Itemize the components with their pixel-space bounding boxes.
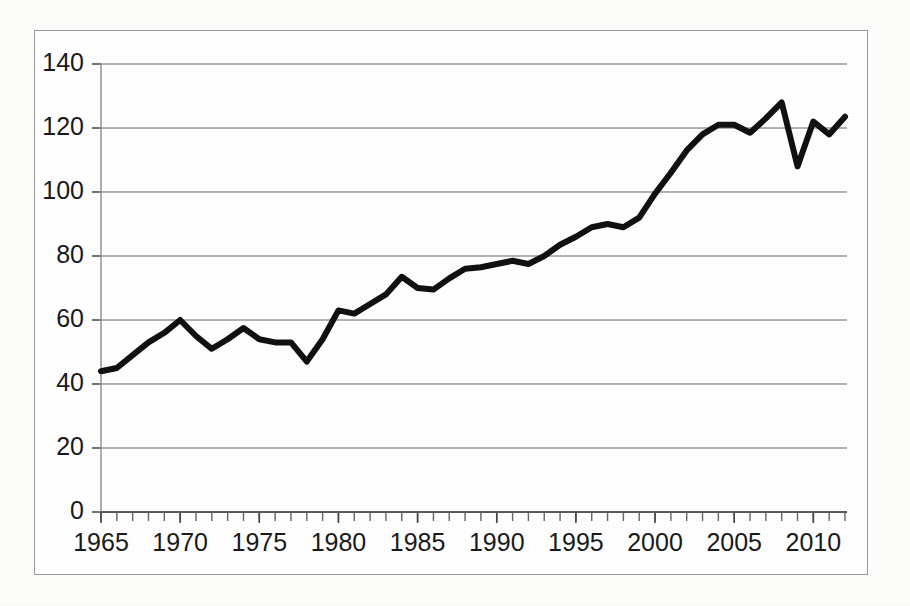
y-tick-label: 80 (14, 240, 84, 269)
x-tick-label: 2005 (689, 528, 779, 557)
data-series-line (101, 102, 845, 371)
chart-figure: 020406080100120140 196519701975198019851… (0, 0, 910, 606)
x-tick-label: 1980 (293, 528, 383, 557)
line-chart-plot (0, 0, 910, 606)
y-ticks-group (92, 64, 101, 512)
y-tick-label: 20 (14, 432, 84, 461)
x-tick-label: 1985 (373, 528, 463, 557)
x-tick-label: 2010 (768, 528, 858, 557)
gridlines-group (101, 64, 847, 448)
x-tick-label: 1965 (56, 528, 146, 557)
x-major-ticks-group (101, 512, 813, 523)
y-tick-label: 140 (14, 48, 84, 77)
y-tick-label: 60 (14, 304, 84, 333)
y-tick-label: 120 (14, 112, 84, 141)
x-tick-label: 1970 (135, 528, 225, 557)
x-tick-label: 1990 (452, 528, 542, 557)
y-tick-label: 0 (14, 496, 84, 525)
x-tick-label: 1995 (531, 528, 621, 557)
x-tick-label: 2000 (610, 528, 700, 557)
x-tick-label: 1975 (214, 528, 304, 557)
y-tick-label: 40 (14, 368, 84, 397)
y-tick-label: 100 (14, 176, 84, 205)
